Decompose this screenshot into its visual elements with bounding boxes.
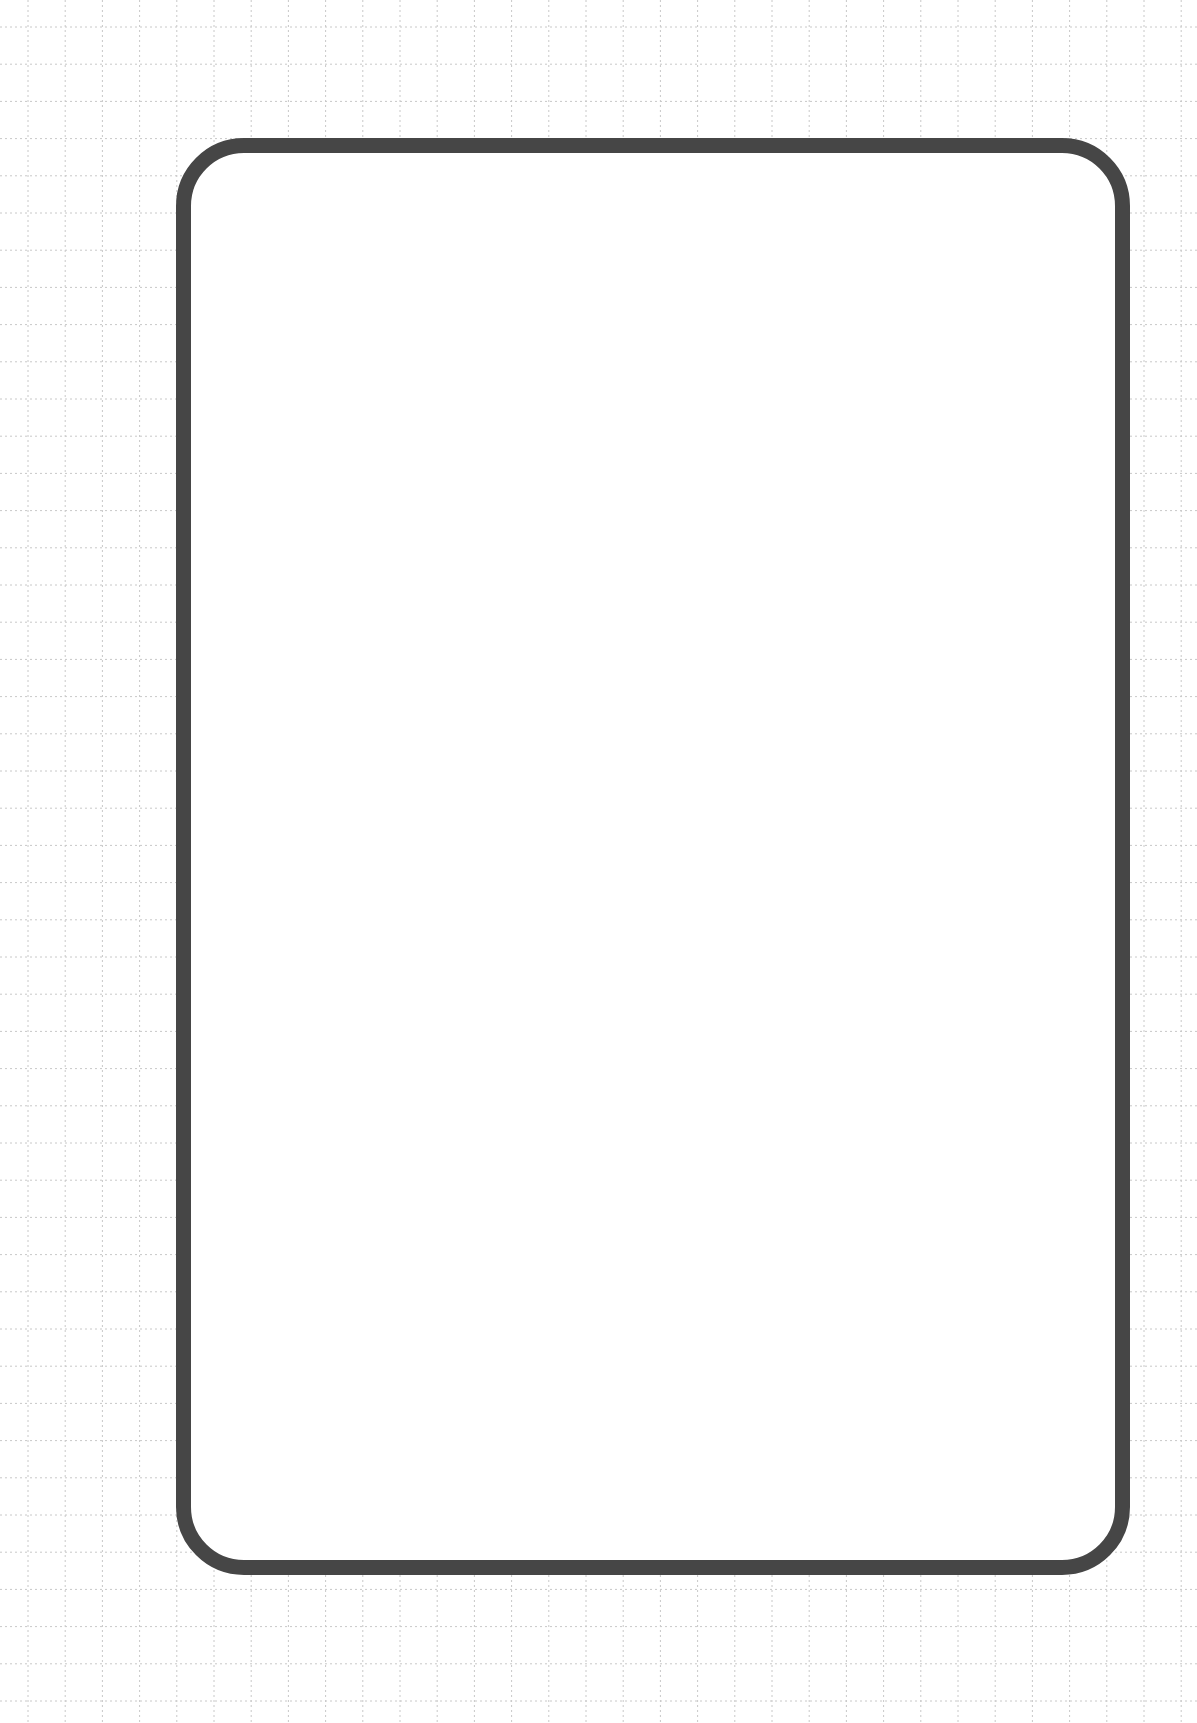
blank-rounded-frame	[176, 138, 1130, 1575]
